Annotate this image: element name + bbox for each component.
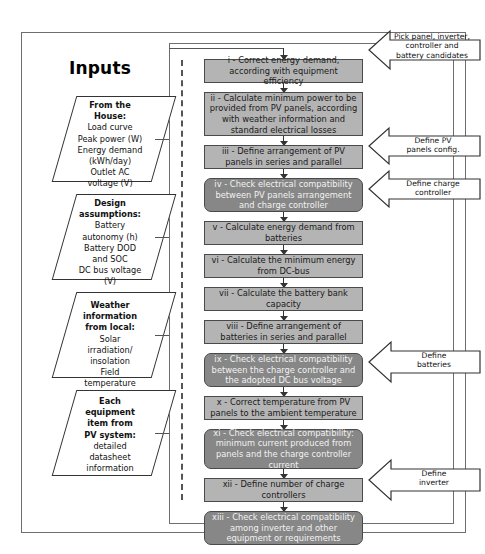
input-connector-line <box>155 139 169 140</box>
input-heading-weather-information: Weather information from local: <box>60 300 160 334</box>
input-line: Load curve <box>87 122 132 132</box>
connector-xii-xiii <box>283 502 284 511</box>
input-heading-from-the-house: From the House: <box>60 100 160 122</box>
connector-vii-viii <box>283 311 284 320</box>
input-connector-line <box>155 433 169 434</box>
input-line: Field <box>101 367 120 377</box>
step-xiii-label: xiii - Check electrical compatibility am… <box>209 512 358 544</box>
callout-define-batteries-label: Define batteries <box>390 351 478 370</box>
input-line: Energy demand <box>78 145 143 155</box>
step-vi[interactable]: vi - Calculate the minimum energy from D… <box>204 254 363 278</box>
input-line: Battery DOD <box>84 243 136 253</box>
input-heading-design-assumptions: Design assumptions: <box>60 198 160 220</box>
step-ii-label: ii - Calculate minimum power to be provi… <box>209 93 358 135</box>
input-line: Peak power (W) <box>78 134 142 144</box>
step-xi[interactable]: xi - Check electrical compatibility: min… <box>204 429 363 469</box>
step-viii-label: viii - Define arrangement of batteries i… <box>209 321 358 342</box>
connector-i-ii <box>283 83 284 92</box>
connector-iii-iv <box>283 169 284 178</box>
input-line: DC bus voltage <box>79 265 141 275</box>
step-ix-label: ix - Check electrical compatibility betw… <box>209 354 358 386</box>
step-x[interactable]: x - Correct temperature from PV panels t… <box>204 396 363 420</box>
step-x-label: x - Correct temperature from PV panels t… <box>209 397 358 418</box>
step-vi-label: vi - Calculate the minimum energy from D… <box>209 255 358 276</box>
input-label-from-the-house: From the House: Load curve Peak power (W… <box>60 100 160 190</box>
input-line: autonomy (h) <box>82 232 138 242</box>
connector-ii-iii <box>283 136 284 145</box>
input-label-equipment-datasheet: Each equipment item from PV system: deta… <box>60 396 160 474</box>
input-line: Battery <box>95 220 125 230</box>
step-xii-label: xii - Define number of charge controller… <box>209 479 358 500</box>
step-iv-label: iv - Check electrical compatibility betw… <box>209 179 358 211</box>
step-vii[interactable]: vii - Calculate the battery bank capacit… <box>204 287 363 311</box>
step-iii[interactable]: iii - Define arrangement of PV panels in… <box>204 145 363 169</box>
input-line: (V) <box>104 276 116 286</box>
connector-iv-v <box>283 212 284 221</box>
input-line: insolation <box>90 356 130 366</box>
input-connector-line <box>155 237 169 238</box>
input-label-weather-information: Weather information from local: Solar ir… <box>60 300 160 390</box>
connector-ix-x <box>283 387 284 396</box>
input-heading-equipment-datasheet: Each equipment item from PV system: <box>60 396 160 441</box>
connector-vi-vii <box>283 278 284 287</box>
input-line: information <box>86 463 133 473</box>
connector-xi-xii <box>283 469 284 478</box>
input-line: irradiation/ <box>88 345 133 355</box>
input-connector-line <box>155 335 169 336</box>
connector-v-vi <box>283 245 284 254</box>
step-vii-label: vii - Calculate the battery bank capacit… <box>209 288 358 309</box>
input-line: temperature <box>84 378 135 388</box>
step-ii[interactable]: ii - Calculate minimum power to be provi… <box>204 92 363 136</box>
step-xii[interactable]: xii - Define number of charge controller… <box>204 478 363 502</box>
connector-viii-ix <box>283 344 284 353</box>
dashed-separator <box>181 60 183 500</box>
step-iii-label: iii - Define arrangement of PV panels in… <box>209 146 358 167</box>
input-label-design-assumptions: Design assumptions: Battery autonomy (h)… <box>60 198 160 288</box>
input-line: datasheet <box>89 452 130 462</box>
page-title: Inputs <box>40 58 160 78</box>
step-ix[interactable]: ix - Check electrical compatibility betw… <box>204 353 363 387</box>
input-line: detailed <box>93 441 126 451</box>
step-xi-label: xi - Check electrical compatibility: min… <box>209 428 358 470</box>
callout-define-pv-panels-label: Define PV panels config. <box>388 136 478 155</box>
callout-pick-candidates-label: Pick panel, inverter, controller and bat… <box>386 32 478 60</box>
step-i[interactable]: i - Correct energy demand, according wit… <box>204 59 363 83</box>
input-line: Outlet AC <box>90 167 129 177</box>
step-xiii[interactable]: xiii - Check electrical compatibility am… <box>204 511 363 545</box>
top-entry-horizontal <box>169 48 284 49</box>
input-line: (kWh/day) <box>89 156 131 166</box>
input-line: voltage (V) <box>87 178 132 188</box>
input-line: and SOC <box>92 254 127 264</box>
callout-define-charge-controller-label: Define charge controller <box>388 179 478 198</box>
callout-define-inverter-label: Define inverter <box>390 469 478 488</box>
input-line: Solar <box>100 334 121 344</box>
step-viii[interactable]: viii - Define arrangement of batteries i… <box>204 320 363 344</box>
step-v-label: v - Calculate energy demand from batteri… <box>209 222 358 243</box>
step-v[interactable]: v - Calculate energy demand from batteri… <box>204 221 363 245</box>
step-iv[interactable]: iv - Check electrical compatibility betw… <box>204 178 363 212</box>
flowchart-canvas: Inputs From the House: Load curve Peak p… <box>0 0 485 554</box>
